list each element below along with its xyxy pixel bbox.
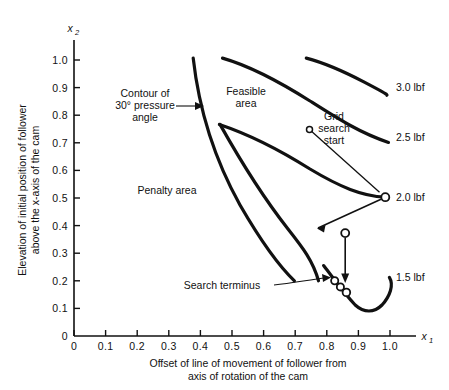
x-axis-symbol: x [420,330,427,342]
contour-curve-3.0-lbf [306,58,387,95]
x-axis-title-line1: Offset of line of movement of follower f… [149,357,346,369]
y-tick-label-0.5: 0.5 [52,192,68,204]
y-tick-label-0.9: 0.9 [52,82,68,94]
search-point-2-marker [381,193,389,201]
search-path-segment-1 [310,129,380,192]
grid-search-start-label-line2: search [318,122,350,134]
x-tick-label-0.4: 0.4 [193,340,209,352]
feasible-area-label-line1: Feasible [226,85,266,97]
x-tick-labels: 0 0.1 0.2 0.3 0.4 0.5 0.6 0.7 0.8 0.9 1.… [71,340,398,352]
pressure-angle-label-line1: Contour of [120,87,169,99]
y-axis-subscript: 2 [74,28,80,37]
y-tick-label-0.1: 0.1 [52,302,68,314]
search-terminus-label: Search terminus [184,279,260,291]
penalty-area-label: Penalty area [138,184,197,196]
search-terminus-annotation: Search terminus [184,274,331,291]
x-axis-title: Offset of line of movement of follower f… [149,357,346,382]
y-tick-label-0.8: 0.8 [52,109,68,121]
penalty-area-boundary-line [220,124,319,280]
x-axis-subscript: 1 [429,336,433,345]
contour-label-3.0-lbf: 3.0 lbf [396,81,425,93]
chart-svg: 0 0.1 0.2 0.3 0.4 0.5 0.6 0.7 0.8 0.9 1.… [0,0,449,390]
y-tick-label-0: 0 [62,330,68,342]
y-tick-labels: 0 0.1 0.2 0.3 0.4 0.5 0.6 0.7 0.8 0.9 1.… [52,54,68,342]
y-tick-label-1.0: 1.0 [52,54,68,66]
search-path-arrowhead-2 [341,274,349,284]
feasible-area-annotation: Feasible area [226,85,266,109]
y-axis-title: Elevation of initial position of followe… [16,104,41,276]
search-point-4-marker [331,277,338,284]
pressure-angle-annotation: Contour of 30° pressure angle [115,87,204,123]
y-tick-label-0.3: 0.3 [52,247,68,259]
x-tick-label-1.0: 1.0 [382,340,398,352]
axis-symbols: x 2 x 1 [66,22,433,345]
contour-labels: 3.0 lbf 2.5 lbf 2.0 lbf 1.5 lbf [396,81,425,283]
x-tick-label-0.5: 0.5 [224,340,240,352]
y-axis-title-line2: above the x-axis of the cam [29,126,41,255]
y-tick-label-0.6: 0.6 [52,164,68,176]
y-tick-label-0.4: 0.4 [52,220,68,232]
contour-label-1.5-lbf: 1.5 lbf [396,271,425,283]
x-tick-label-0: 0 [71,340,77,352]
x-tick-label-0.1: 0.1 [98,340,114,352]
pressure-angle-label-line3: angle [132,111,158,123]
x-axis-title-line2: axis of rotation of the cam [188,370,308,382]
x-axis-ticks [74,330,390,336]
y-axis-title-line1: Elevation of initial position of followe… [16,104,28,276]
x-tick-label-0.2: 0.2 [129,340,145,352]
contour-curve-2.0-lbf [219,124,385,197]
search-terminus-marker [343,289,351,297]
x-tick-label-0.9: 0.9 [351,340,367,352]
search-path-segment-2 [318,199,381,228]
y-tick-label-0.2: 0.2 [52,275,68,287]
x-tick-label-0.3: 0.3 [161,340,177,352]
search-point-3-marker [341,229,349,237]
contour-label-2.0-lbf: 2.0 lbf [396,191,425,203]
y-tick-label-0.7: 0.7 [52,137,68,149]
x-tick-label-0.7: 0.7 [287,340,303,352]
grid-search-start-label-line3: start [324,134,345,146]
x-tick-label-0.6: 0.6 [256,340,272,352]
pressure-angle-label-line2: 30° pressure [115,99,175,111]
y-axis-ticks [74,60,80,308]
grid-search-start-marker [307,126,313,132]
contour-curve-1.5-lbf [324,266,392,311]
y-axis-symbol: x [66,22,73,34]
x-tick-label-0.8: 0.8 [319,340,335,352]
grid-search-start-label-line1: Grid [324,110,344,122]
grid-search-start-annotation: Grid search start [318,110,350,146]
feasible-area-label-line2: area [235,97,256,109]
figure-container: 0 0.1 0.2 0.3 0.4 0.5 0.6 0.7 0.8 0.9 1.… [0,0,449,390]
contour-label-2.5-lbf: 2.5 lbf [396,131,425,143]
